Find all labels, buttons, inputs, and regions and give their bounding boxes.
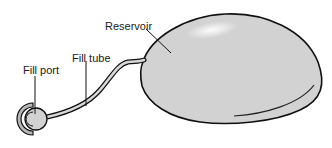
reservoir-label: Reservoir [105,20,152,32]
fill-port-shape [17,103,47,135]
fill-tube-label: Fill tube [72,52,111,64]
fill-port-label: Fill port [23,64,59,76]
reservoir-shape [141,14,322,124]
fill-tube-shape [47,60,144,117]
